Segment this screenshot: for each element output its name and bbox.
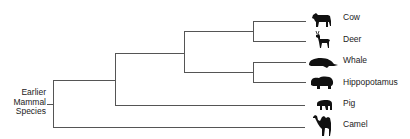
cow-icon [312,13,331,27]
root-label-line: Species [4,107,46,117]
root-label: Earlier Mammal Species [4,88,46,117]
leaf-label-cow: Cow [343,12,360,22]
leaf-label-whale: Whale [343,55,367,65]
leaf-label-camel: Camel [343,119,368,129]
deer-icon [316,31,330,48]
hippopotamus-icon [311,77,333,89]
leaf-label-deer: Deer [343,34,361,44]
camel-icon [313,115,331,136]
pig-icon [317,100,332,110]
leaf-label-pig: Pig [343,98,355,108]
leaf-label-hippopotamus: Hippopotamus [343,77,398,87]
whale-icon [309,58,338,68]
